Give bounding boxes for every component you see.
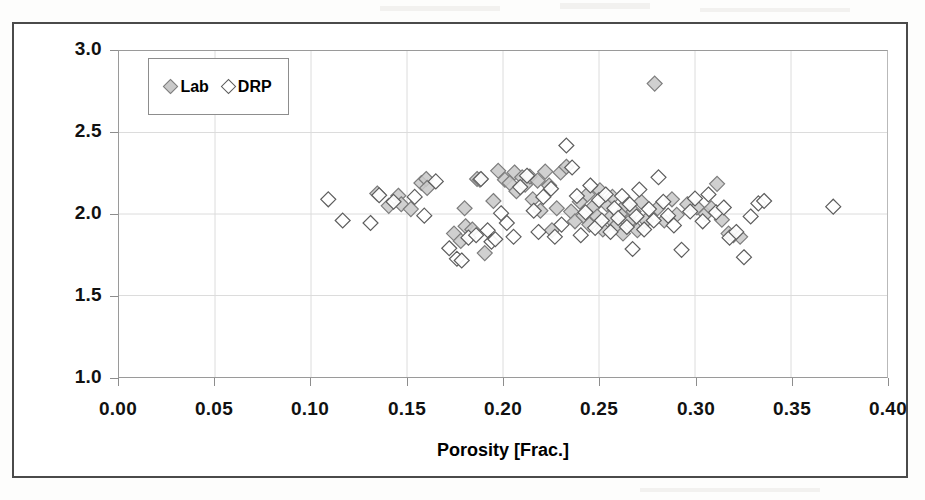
data-point-drp <box>826 199 841 214</box>
x-tick-label-0.35: 0.35 <box>757 398 827 420</box>
x-tick-mark-0.00 <box>118 378 119 386</box>
legend-marker-lab-diamond-icon <box>163 79 179 95</box>
x-tick-label-0.25: 0.25 <box>564 398 634 420</box>
data-point-drp <box>417 208 432 223</box>
data-point-drp <box>743 209 758 224</box>
data-point-lab <box>710 176 725 191</box>
data-point-drp <box>321 192 336 207</box>
legend: Lab DRP <box>148 58 289 115</box>
data-point-drp <box>335 213 350 228</box>
x-tick-label-0.30: 0.30 <box>661 398 731 420</box>
data-point-drp <box>632 182 647 197</box>
x-tick-label-0.15: 0.15 <box>372 398 442 420</box>
x-tick-mark-0.30 <box>696 378 697 386</box>
x-tick-mark-0.05 <box>214 378 215 386</box>
data-point-drp <box>651 170 666 185</box>
x-tick-label-0.05: 0.05 <box>179 398 249 420</box>
legend-entry-lab: Lab <box>165 78 208 96</box>
x-tick-label-0.20: 0.20 <box>468 398 538 420</box>
figure-root: Saturation Exp. (nPD) 3.0 2.5 2.0 1.5 1.… <box>0 0 925 500</box>
data-point-drp <box>531 224 546 239</box>
legend-marker-drp-diamond-icon <box>221 79 237 95</box>
scan-artifact <box>700 8 850 12</box>
scan-artifact <box>560 3 650 9</box>
x-tick-mark-0.35 <box>792 378 793 386</box>
data-point-drp <box>363 216 378 231</box>
legend-label-drp: DRP <box>238 78 272 96</box>
x-axis-title: Porosity [Frac.] <box>118 440 888 461</box>
data-point-drp <box>559 138 574 153</box>
data-point-lab <box>486 194 501 209</box>
data-point-drp <box>407 189 422 204</box>
legend-entry-drp: DRP <box>223 78 272 96</box>
data-point-drp <box>701 187 716 202</box>
x-tick-mark-0.25 <box>599 378 600 386</box>
data-point-drp <box>674 242 689 257</box>
data-point-drp <box>573 228 588 243</box>
x-tick-mark-0.15 <box>407 378 408 386</box>
x-tick-mark-0.20 <box>503 378 504 386</box>
y-tick-label-3.0: 3.0 <box>56 38 102 60</box>
data-point-drp <box>506 229 521 244</box>
y-tick-label-1.0: 1.0 <box>56 366 102 388</box>
y-tick-label-1.5: 1.5 <box>56 284 102 306</box>
y-tick-label-2.0: 2.0 <box>56 202 102 224</box>
legend-label-lab: Lab <box>180 78 208 96</box>
x-tick-mark-0.40 <box>888 378 889 386</box>
x-tick-mark-0.10 <box>310 378 311 386</box>
data-point-drp <box>736 250 751 265</box>
scan-artifact <box>640 488 820 492</box>
data-point-lab <box>549 201 564 216</box>
data-point-lab <box>647 76 662 91</box>
data-point-lab <box>457 201 472 216</box>
x-tick-label-0.40: 0.40 <box>853 398 923 420</box>
scan-artifact <box>380 6 500 11</box>
x-tick-label-0.00: 0.00 <box>83 398 153 420</box>
data-point-drp <box>625 242 640 257</box>
y-tick-label-2.5: 2.5 <box>56 120 102 142</box>
x-tick-label-0.10: 0.10 <box>275 398 345 420</box>
